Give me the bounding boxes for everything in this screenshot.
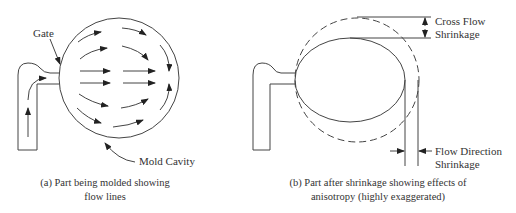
mold-cavity-circle (59, 18, 179, 138)
sprue-runner (18, 63, 59, 150)
flow-direction-label-line1: Flow Direction (435, 145, 502, 158)
gate-label: Gate (33, 27, 54, 40)
mold-cavity-leader (105, 143, 135, 162)
cross-flow-label-line2: Shrinkage (435, 28, 480, 41)
cross-flow-label-line1: Cross Flow (435, 15, 485, 28)
shrunk-part-ellipse (295, 38, 405, 122)
caption-a-line2: flow lines (40, 190, 170, 204)
caption-b-line2: anisotropy (highly exaggerated) (288, 190, 468, 204)
flow-direction-label-line2: Shrinkage (435, 158, 480, 171)
panel-b-diagram (253, 17, 432, 166)
original-outline-dashed (295, 18, 419, 142)
gate-leader (50, 39, 60, 64)
caption-b-line1: (b) Part after shrinkage showing effects… (288, 176, 468, 190)
mold-cavity-label: Mold Cavity (139, 155, 195, 168)
caption-a-line1: (a) Part being molded showing (40, 176, 170, 190)
